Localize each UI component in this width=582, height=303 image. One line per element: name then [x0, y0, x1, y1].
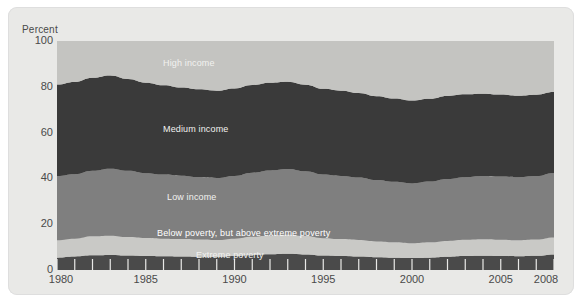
x-tick-label: 1990: [222, 273, 246, 285]
x-tick-mark: [269, 259, 270, 270]
x-tick-mark: [465, 259, 466, 270]
x-tick-label: 1980: [49, 273, 73, 285]
y-axis: 100806040200: [5, 41, 53, 270]
x-tick-mark: [394, 259, 395, 270]
series-label-low-income: Low income: [167, 192, 217, 202]
x-tick-mark: [57, 259, 58, 270]
y-tick-label: 40: [6, 171, 53, 183]
x-tick-mark: [163, 259, 164, 270]
x-tick-mark: [358, 259, 359, 270]
x-tick-mark: [74, 259, 75, 270]
x-tick-mark: [500, 259, 501, 270]
y-tick-label: 60: [6, 126, 53, 138]
y-tick-label: 100: [6, 34, 53, 46]
chart-figure: Percent 100806040200 1980198519901995200…: [0, 0, 582, 303]
x-tick-mark: [482, 259, 483, 270]
y-tick-label: 20: [6, 217, 53, 229]
series-label-medium-income: Medium income: [163, 124, 228, 134]
x-tick-mark: [234, 259, 235, 270]
x-tick-mark: [553, 259, 554, 270]
x-tick-mark: [305, 259, 306, 270]
x-tick-mark: [323, 259, 324, 270]
x-tick-mark: [110, 259, 111, 270]
x-tick-mark: [447, 259, 448, 270]
x-tick-mark: [181, 259, 182, 270]
series-label-high-income: High income: [163, 58, 215, 68]
x-tick-mark: [536, 259, 537, 270]
x-tick-label: 2000: [400, 273, 424, 285]
series-label-below-poverty: Below poverty, but above extreme poverty: [157, 228, 330, 238]
series-label-extreme-poverty: Extreme poverty: [196, 250, 264, 260]
x-tick-mark: [127, 259, 128, 270]
x-tick-mark: [411, 259, 412, 270]
x-tick-mark: [92, 259, 93, 270]
x-tick-label: 2005: [489, 273, 513, 285]
x-tick-mark: [518, 259, 519, 270]
x-tick-mark: [198, 259, 199, 270]
x-tick-mark: [252, 259, 253, 270]
x-tick-mark: [287, 259, 288, 270]
x-tick-mark: [216, 259, 217, 270]
x-tick-mark: [376, 259, 377, 270]
y-tick-label: 80: [6, 80, 53, 92]
x-tick-label: 1985: [134, 273, 158, 285]
x-tick-mark: [429, 259, 430, 270]
x-tick-mark: [340, 259, 341, 270]
x-tick-mark: [145, 259, 146, 270]
y-tick-label: 0: [6, 263, 53, 275]
x-tick-label: 2008: [534, 273, 558, 285]
x-axis: 1980198519901995200020052008: [57, 273, 554, 291]
x-tick-label: 1995: [311, 273, 335, 285]
